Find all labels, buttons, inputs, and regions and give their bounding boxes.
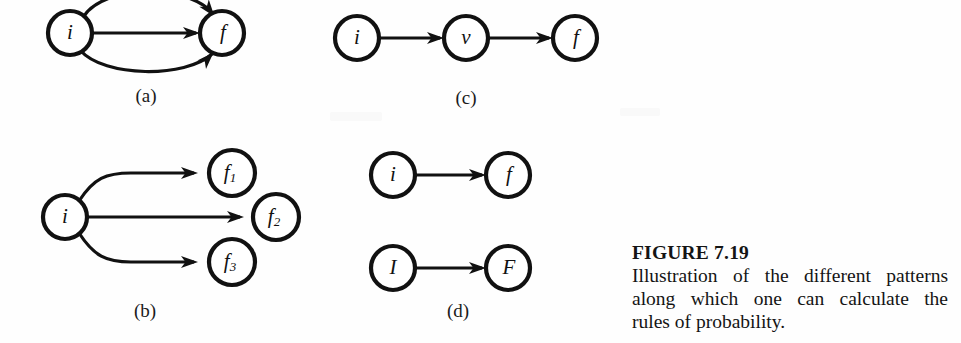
panel-a-edge-arc-below bbox=[80, 48, 218, 71]
panel-c-edge-i-v bbox=[379, 32, 444, 44]
panel-d-edge-i-f bbox=[415, 169, 486, 181]
panel-b-edge-i-f1 bbox=[79, 167, 198, 201]
panel-a-edge-arc-above bbox=[84, 0, 219, 20]
figure-caption-body: Illustration of the different patterns a… bbox=[632, 264, 948, 333]
panel-a: i f (a) bbox=[48, 0, 244, 107]
panel-b-edge-i-f3 bbox=[79, 233, 198, 268]
figure-caption-line-1: Illustration of the different patterns bbox=[632, 264, 948, 287]
node-d-i-label: i bbox=[390, 162, 396, 186]
node-b-i-label: i bbox=[62, 204, 68, 228]
panel-d-caption: (d) bbox=[447, 300, 469, 322]
panel-c: i v f (c) bbox=[335, 16, 597, 109]
node-d-I-label: I bbox=[389, 255, 398, 279]
node-c-i-label: i bbox=[354, 25, 360, 49]
panel-b-caption: (b) bbox=[134, 300, 156, 322]
panel-d-edge-I-F bbox=[415, 262, 486, 274]
node-d-F-label: F bbox=[502, 255, 516, 279]
panel-b-edge-i-f2 bbox=[87, 211, 244, 223]
panel-c-edge-v-f bbox=[488, 32, 553, 44]
panel-a-caption: (a) bbox=[135, 85, 156, 107]
figure-caption-line-2: along which one can calculate the bbox=[632, 287, 948, 310]
figure-page: i f (a) i bbox=[0, 0, 961, 343]
figure-caption-line-3: rules of probability. bbox=[632, 310, 948, 333]
panel-b: i f1 f2 f3 (b) bbox=[43, 150, 299, 322]
panel-d: i f I F (d) bbox=[371, 153, 530, 322]
panel-a-edge-straight bbox=[92, 27, 200, 39]
node-a-i-label: i bbox=[67, 20, 73, 44]
panel-c-caption: (c) bbox=[455, 87, 476, 109]
node-c-v-label: v bbox=[461, 25, 471, 49]
figure-caption-block: FIGURE 7.19 Illustration of the differen… bbox=[632, 241, 948, 333]
figure-caption-title: FIGURE 7.19 bbox=[632, 241, 948, 264]
